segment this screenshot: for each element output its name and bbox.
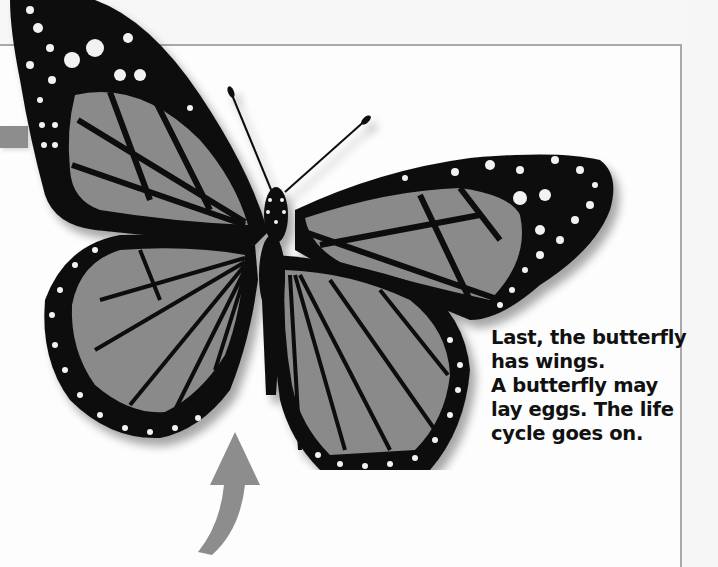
frame-border-right — [680, 44, 682, 567]
caption-line: has wings. — [491, 350, 676, 374]
caption-line: Last, the butterfly — [491, 326, 676, 350]
caption-text: Last, the butterfly has wings. A butterf… — [491, 326, 676, 446]
arrow-up-icon — [190, 430, 270, 555]
caption-line: cycle goes on. — [491, 422, 676, 446]
caption-line: A butterfly may — [491, 374, 676, 398]
page-margin-right — [682, 0, 718, 567]
caption-line: lay eggs. The life — [491, 398, 676, 422]
book-page: Last, the butterfly has wings. A butterf… — [0, 0, 718, 567]
